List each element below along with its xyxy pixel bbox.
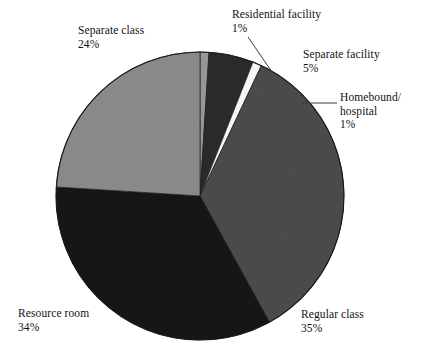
slice-label-homebound-hospital-name: Homebound/ — [340, 91, 401, 105]
slice-label-homebound-hospital-percent: 1% — [340, 118, 401, 132]
slice-label-residential-facility: Residential facility 1% — [232, 8, 321, 35]
slice-label-residential-facility-name: Residential facility — [232, 8, 321, 22]
slice-label-separate-class: Separate class 24% — [78, 24, 144, 51]
slice-label-resource-room-name: Resource room — [18, 307, 89, 321]
slice-label-regular-class: Regular class 35% — [301, 308, 364, 335]
slice-label-homebound-hospital: Homebound/ hospital 1% — [340, 91, 401, 132]
slice-label-separate-class-percent: 24% — [78, 38, 144, 52]
pie-slices — [56, 52, 344, 340]
slice-label-separate-facility-percent: 5% — [303, 62, 380, 76]
slice-separate-class[interactable] — [56, 52, 200, 196]
slice-label-separate-facility-name: Separate facility — [303, 48, 380, 62]
slice-label-residential-facility-percent: 1% — [232, 22, 321, 36]
slice-label-separate-facility: Separate facility 5% — [303, 48, 380, 75]
slice-label-resource-room: Resource room 34% — [18, 307, 89, 334]
slice-label-homebound-hospital-name2: hospital — [340, 105, 401, 119]
slice-label-separate-class-name: Separate class — [78, 24, 144, 38]
slice-label-regular-class-name: Regular class — [301, 308, 364, 322]
slice-label-resource-room-percent: 34% — [18, 321, 89, 335]
slice-label-regular-class-percent: 35% — [301, 322, 364, 336]
pie-chart-figure: Separate class 24% Residential facility … — [0, 0, 423, 353]
